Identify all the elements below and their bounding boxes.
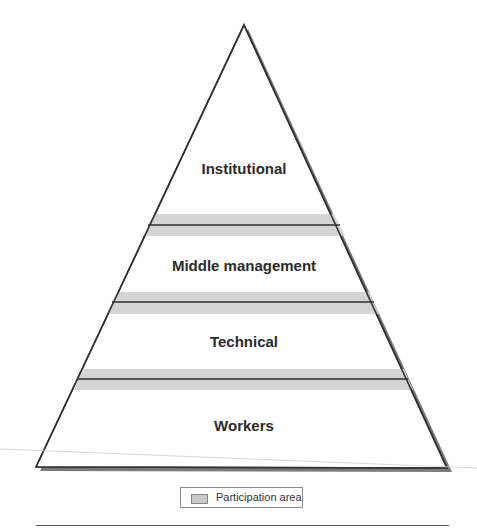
level-workers: Workers bbox=[214, 417, 274, 434]
participation-band-2 bbox=[107, 292, 379, 314]
level-technical: Technical bbox=[210, 333, 278, 350]
legend-label: Participation area bbox=[216, 491, 302, 503]
participation-band-1 bbox=[144, 214, 345, 236]
bottom-divider bbox=[36, 525, 449, 526]
participation-band-3 bbox=[74, 369, 413, 390]
level-institutional: Institutional bbox=[202, 160, 287, 177]
pyramid-body bbox=[36, 25, 447, 468]
legend: Participation area bbox=[180, 487, 303, 508]
participation-swatch-icon bbox=[191, 494, 208, 504]
level-middle-management: Middle management bbox=[172, 257, 316, 274]
